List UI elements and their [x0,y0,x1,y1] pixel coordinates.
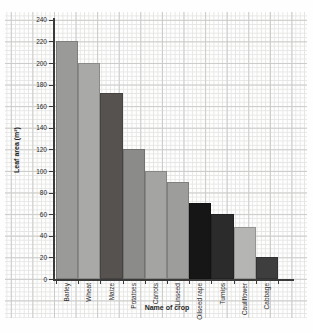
y-tick-label: 20 [25,254,47,261]
x-label-linseed: Linseed [174,283,182,306]
x-label-turnips: Turnips [219,283,227,304]
y-tick-label: 240 [25,16,47,23]
x-tick-mark [189,281,190,284]
x-axis-title: Name of crop [117,304,217,311]
x-tick-mark [78,281,79,284]
bar-carrots [145,171,167,279]
y-axis-line [53,18,55,281]
y-tick-label: 180 [25,81,47,88]
bar-barley [56,41,78,279]
x-tick-mark [100,281,101,284]
x-tick-mark [123,281,124,284]
y-tick-label: 120 [25,146,47,153]
bar-turnips [211,214,233,279]
x-tick-mark [56,281,57,284]
x-tick-mark [167,281,168,284]
y-tick-label: 40 [25,232,47,239]
x-label-maize: Maize [108,283,116,300]
x-label-cabbage: Cabbage [263,283,271,309]
x-label-carrots: Carrots [152,283,160,304]
y-tick-label: 200 [25,60,47,67]
y-tick-label: 100 [25,168,47,175]
x-tick-mark [256,281,257,284]
bar-chart: 020406080100120140160180200220240 Barley… [0,0,313,333]
x-label-wheat: Wheat [85,283,93,302]
x-tick-mark [234,281,235,284]
y-tick-label: 0 [25,276,47,283]
y-axis-title: Leaf area (m²) [13,127,20,173]
x-tick-mark [211,281,212,284]
x-label-oilseed-rape: Oilseed rape [196,283,204,320]
x-tick-mark [145,281,146,284]
bar-potatoes [123,149,145,279]
bar-cauliflower [234,227,256,279]
bar-oilseed-rape [189,203,211,279]
bar-maize [100,93,122,279]
bar-wheat [78,63,100,279]
y-tick-label: 80 [25,189,47,196]
y-tick-label: 60 [25,211,47,218]
y-tick-label: 160 [25,103,47,110]
x-label-cauliflower: Cauliflower [241,283,249,315]
x-label-barley: Barley [63,283,71,301]
bar-linseed [167,182,189,279]
y-tick-label: 220 [25,38,47,45]
bar-cabbage [256,257,278,279]
y-tick-label: 140 [25,124,47,131]
x-axis-line [53,279,294,281]
x-tick-mark [278,281,279,284]
